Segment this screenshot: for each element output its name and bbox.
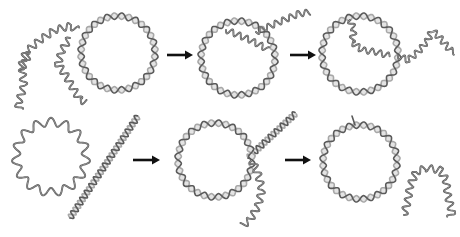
displacement-intermediate (319, 13, 454, 95)
circular-dsdna (78, 13, 158, 93)
ssdna-and-circular-dsdna (15, 13, 158, 109)
circular-ssdna (12, 118, 90, 196)
arrow (167, 51, 193, 60)
circular-dsdna (320, 122, 400, 202)
linear-dsdna (247, 112, 297, 159)
circular-dsdna (175, 120, 255, 200)
single-strand (15, 52, 30, 109)
product-circular-dsdna-and-released-ssdna (320, 116, 455, 217)
arrow-head-icon (185, 51, 193, 60)
circular-ssdna-and-linear-dsdna (12, 116, 140, 219)
single-strand (19, 23, 79, 70)
bottom-row (12, 112, 455, 226)
arrow-head-icon (308, 51, 316, 60)
top-row (15, 10, 454, 109)
single-strand (402, 165, 455, 216)
arrow (133, 156, 160, 165)
single-strand (256, 10, 310, 34)
arrow-head-icon (152, 156, 160, 165)
arrow (285, 156, 311, 165)
strand-displacement-diagram (0, 0, 460, 237)
annealed-intermediate (175, 112, 297, 226)
arrow (290, 51, 316, 60)
single-strand (398, 31, 454, 63)
arrow-head-icon (303, 156, 311, 165)
